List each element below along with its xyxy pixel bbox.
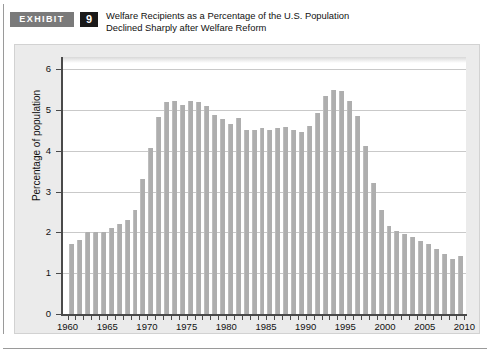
bar <box>418 241 423 314</box>
y-tick-label: 3 <box>23 187 51 197</box>
bar <box>244 130 249 314</box>
bar <box>339 91 344 314</box>
x-tick-mark <box>456 316 457 320</box>
bar <box>133 210 138 314</box>
chart-panel: Percentage of population 0123456 1960196… <box>14 44 480 334</box>
exhibit-number-badge: 9 <box>80 12 98 27</box>
x-tick-mark <box>218 316 219 320</box>
bar <box>204 106 209 314</box>
bar <box>85 232 90 314</box>
x-tick-mark <box>449 316 450 320</box>
x-tick-mark <box>322 316 323 320</box>
bar <box>101 232 106 314</box>
x-tick-mark <box>385 316 386 320</box>
bar <box>394 231 399 314</box>
y-tick-label: 0 <box>23 309 51 319</box>
bar <box>458 256 463 314</box>
x-tick-mark <box>75 316 76 320</box>
x-tick-mark <box>155 316 156 320</box>
bar <box>188 101 193 314</box>
x-tick-label: 2005 <box>405 322 445 332</box>
x-tick-mark <box>234 316 235 320</box>
bar <box>371 183 376 314</box>
x-tick-mark <box>147 316 148 320</box>
bar <box>331 90 336 314</box>
left-divider <box>3 4 4 334</box>
bar <box>109 228 114 314</box>
x-tick-mark <box>179 316 180 320</box>
y-tick-label: 6 <box>23 64 51 74</box>
x-tick-mark <box>68 316 69 320</box>
x-tick-label: 1990 <box>286 322 326 332</box>
bar <box>156 117 161 314</box>
bar <box>315 113 320 314</box>
bar <box>196 102 201 314</box>
x-tick-mark <box>433 316 434 320</box>
bar <box>402 234 407 314</box>
plot-area <box>62 57 466 314</box>
bar <box>275 128 280 314</box>
bar <box>434 249 439 314</box>
exhibit-header: EXHIBIT 9 Welfare Recipients as a Percen… <box>10 10 480 40</box>
bar <box>220 119 225 314</box>
x-tick-mark <box>187 316 188 320</box>
x-tick-label: 1975 <box>167 322 207 332</box>
x-tick-mark <box>464 316 465 320</box>
bar <box>252 130 257 314</box>
bar <box>180 105 185 314</box>
x-tick-mark <box>417 316 418 320</box>
exhibit-figure: EXHIBIT 9 Welfare Recipients as a Percen… <box>0 0 492 362</box>
x-tick-label: 2010 <box>444 322 484 332</box>
x-tick-mark <box>329 316 330 320</box>
x-tick-mark <box>226 316 227 320</box>
bar <box>93 232 98 314</box>
x-tick-mark <box>337 316 338 320</box>
bar <box>236 118 241 314</box>
bar <box>442 254 447 314</box>
x-tick-label: 1985 <box>246 322 286 332</box>
x-tick-label: 1965 <box>87 322 127 332</box>
x-tick-mark <box>107 316 108 320</box>
x-tick-mark <box>266 316 267 320</box>
x-tick-mark <box>83 316 84 320</box>
x-tick-mark <box>274 316 275 320</box>
bar <box>212 115 217 314</box>
y-tick-label: 1 <box>23 268 51 278</box>
y-tick-label: 5 <box>23 105 51 115</box>
x-tick-mark <box>409 316 410 320</box>
x-tick-mark <box>195 316 196 320</box>
x-tick-mark <box>123 316 124 320</box>
bar <box>164 102 169 314</box>
x-tick-mark <box>282 316 283 320</box>
bar <box>291 130 296 314</box>
bar <box>307 126 312 314</box>
x-tick-mark <box>290 316 291 320</box>
bar <box>355 116 360 314</box>
y-axis-line <box>61 57 63 315</box>
bar <box>323 96 328 314</box>
bar <box>77 240 82 314</box>
x-tick-mark <box>298 316 299 320</box>
exhibit-tag-label: EXHIBIT <box>10 12 74 27</box>
bar <box>283 127 288 314</box>
x-tick-mark <box>91 316 92 320</box>
bar <box>379 210 384 314</box>
x-tick-mark <box>258 316 259 320</box>
bar <box>228 124 233 314</box>
x-tick-mark <box>242 316 243 320</box>
bar <box>299 132 304 314</box>
x-tick-mark <box>345 316 346 320</box>
bar <box>117 224 122 314</box>
x-tick-mark <box>369 316 370 320</box>
x-tick-mark <box>99 316 100 320</box>
x-tick-label: 1995 <box>325 322 365 332</box>
bar <box>363 146 368 314</box>
x-tick-mark <box>202 316 203 320</box>
bar <box>410 237 415 315</box>
x-tick-mark <box>210 316 211 320</box>
x-tick-mark <box>171 316 172 320</box>
bar <box>387 226 392 314</box>
bottom-divider <box>3 348 487 349</box>
bar <box>148 148 153 314</box>
x-tick-mark <box>425 316 426 320</box>
